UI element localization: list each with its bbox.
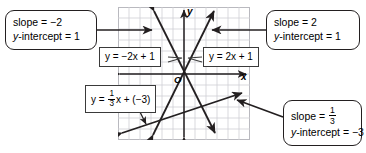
equation-label-bottom[interactable]: y = 13x + (−3) — [85, 85, 156, 113]
callout-top-left[interactable]: slope = −2 y-intercept = 1 — [5, 10, 97, 50]
callout-top-left-intercept: y-intercept = 1 — [13, 30, 89, 44]
callout-top-right-intercept: y-intercept = 1 — [274, 30, 352, 44]
callout-top-right-intercept-rest: -intercept = 1 — [279, 30, 341, 42]
equation-bottom-fraction: 13 — [108, 90, 115, 108]
callout-top-right[interactable]: slope = 2 y-intercept = 1 — [266, 10, 360, 50]
slope-fraction: 13 — [329, 106, 336, 125]
x-axis-label: x — [241, 71, 247, 82]
slope-fraction-denominator: 3 — [329, 116, 336, 125]
y-axis-label: y — [187, 6, 193, 17]
equation-label-left[interactable]: y = −2x + 1 — [99, 47, 161, 67]
figure-root: y x O slope = −2 y-intercept = 1 slope =… — [0, 0, 366, 153]
equation-bottom-prefix: y = — [91, 94, 107, 105]
callout-top-right-slope: slope = 2 — [274, 16, 352, 30]
callout-bottom-right-intercept-rest: -intercept = −3 — [296, 126, 364, 138]
equation-bottom-denominator: 3 — [108, 100, 115, 109]
callout-bottom-right-slope: slope = 13 — [291, 106, 354, 125]
slope-fraction-numerator: 1 — [329, 106, 336, 116]
origin-label: O — [174, 74, 181, 85]
equation-left-text: y = −2x + 1 — [105, 51, 155, 62]
callout-top-left-slope: slope = −2 — [13, 16, 89, 30]
equation-right-text: y = 2x + 1 — [209, 51, 253, 62]
equation-label-right[interactable]: y = 2x + 1 — [203, 47, 259, 67]
callout-bottom-right[interactable]: slope = 13 y-intercept = −3 — [283, 100, 362, 146]
coordinate-plane — [118, 7, 250, 140]
plotted-lines — [118, 7, 250, 140]
callout-top-left-intercept-rest: -intercept = 1 — [18, 30, 80, 42]
callout-bottom-right-intercept: y-intercept = −3 — [291, 125, 354, 140]
callout-bottom-right-slope-label: slope = — [291, 110, 328, 122]
equation-bottom-suffix: x + (−3) — [116, 94, 150, 105]
